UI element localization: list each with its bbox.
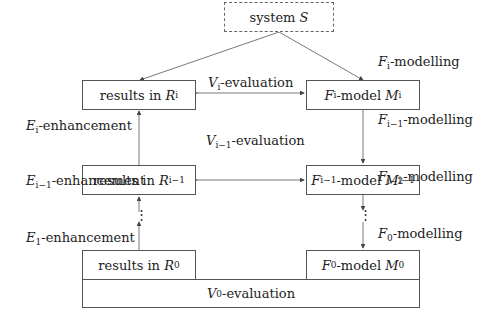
v0-evaluation-bar: V0-evaluation xyxy=(82,279,420,308)
ei-minus-1-enhancement-label: Ei−1-enhancement xyxy=(26,173,145,190)
mod-symbol: F xyxy=(378,112,387,127)
results-subscript: i−1 xyxy=(169,175,185,185)
model-f-symbol: F xyxy=(322,258,331,273)
system-box: system S xyxy=(224,2,334,32)
enh-text: -enhancement xyxy=(52,173,146,188)
mod-text: -modelling xyxy=(403,112,473,127)
model-box-m0: F0-model M0 xyxy=(306,250,420,280)
model-m-symbol: M xyxy=(385,88,398,103)
results-box-ri: results in Ri xyxy=(82,80,196,110)
model-m-symbol: M xyxy=(385,258,398,273)
results-symbol: R xyxy=(164,258,174,273)
eval-symbol: V xyxy=(208,75,217,90)
right-ellipsis: ⋮ xyxy=(359,207,372,222)
results-symbol: R xyxy=(159,173,169,188)
enh-text: -enhancement xyxy=(38,118,132,133)
mod-symbol: F xyxy=(378,54,387,69)
left-ellipsis: ⋮ xyxy=(135,207,148,222)
results-label: results in xyxy=(100,88,162,103)
results-box-r0: results in R0 xyxy=(82,250,196,280)
eval-text: -evaluation xyxy=(220,75,293,90)
eval-symbol: V xyxy=(207,286,216,301)
e1-enhancement-label: E1-enhancement xyxy=(26,230,135,247)
model-f-symbol: F xyxy=(311,173,320,188)
f0-modelling-label: F0-modelling xyxy=(378,226,463,243)
results-subscript: i xyxy=(175,90,178,100)
eval-text: -evaluation xyxy=(232,133,305,148)
results-label: results in xyxy=(98,258,160,273)
eval-symbol: V xyxy=(206,133,215,148)
mod-text: -modelling xyxy=(393,226,463,241)
eval-subscript: i−1 xyxy=(215,140,231,150)
fi-minus-1-modelling-label: Fi−1-modelling xyxy=(378,112,473,129)
fi-modelling-label: Fi-modelling xyxy=(378,54,460,71)
mod-text: -modelling xyxy=(403,169,473,184)
ei-enhancement-label: Ei-enhancement xyxy=(26,118,132,135)
enh-text: -enhancement xyxy=(41,230,135,245)
model-label: -model xyxy=(336,173,381,188)
model-label: -model xyxy=(336,258,381,273)
model-f-symbol: F xyxy=(325,88,334,103)
model-m-subscript: i xyxy=(399,90,402,100)
results-subscript: 0 xyxy=(174,260,180,270)
model-label: -model xyxy=(336,88,381,103)
enh-symbol: E xyxy=(26,230,36,245)
vi-evaluation-label: Vi-evaluation xyxy=(208,75,293,92)
mod-subscript: i−1 xyxy=(387,119,403,129)
enh-subscript: i−1 xyxy=(36,180,52,190)
enh-symbol: E xyxy=(26,118,36,133)
fi-minus-2-modelling-label: Fi−2-modelling xyxy=(378,169,473,186)
model-m-subscript: 0 xyxy=(399,260,405,270)
model-f-subscript: i−1 xyxy=(320,175,336,185)
mod-text: -modelling xyxy=(390,54,460,69)
mod-symbol: F xyxy=(378,169,387,184)
system-symbol: S xyxy=(300,10,309,25)
mod-symbol: F xyxy=(378,226,387,241)
results-symbol: R xyxy=(166,88,176,103)
model-box-mi: Fi-model Mi xyxy=(306,80,420,110)
enh-symbol: E xyxy=(26,173,36,188)
vi-minus-1-evaluation-label: Vi−1-evaluation xyxy=(206,133,305,150)
system-label: system xyxy=(250,10,296,25)
mod-subscript: i−2 xyxy=(387,176,403,186)
eval-text: -evaluation xyxy=(222,286,295,301)
